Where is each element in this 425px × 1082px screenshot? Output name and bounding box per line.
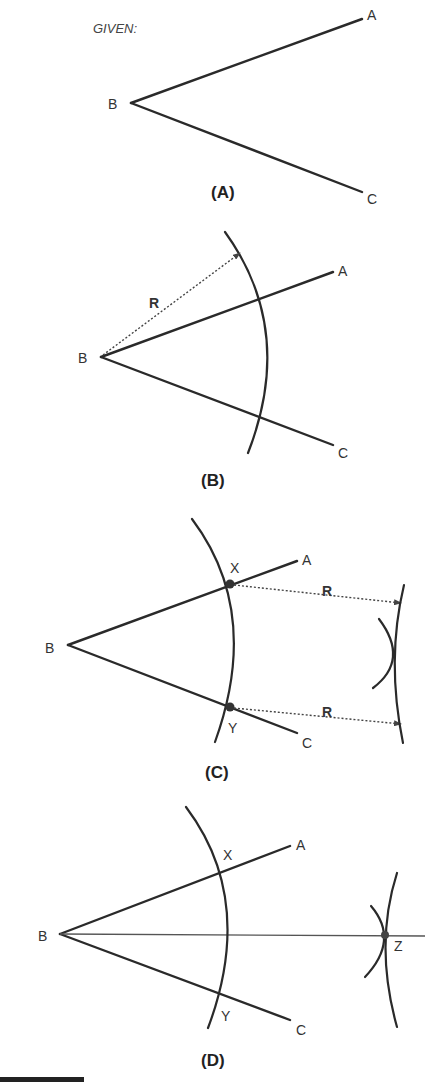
point-a-label: A [302, 552, 312, 568]
radius-arrow [103, 253, 240, 355]
ray-bc [131, 103, 362, 192]
point-z-label: Z [394, 938, 403, 954]
radius-arrow-from-y [234, 708, 401, 724]
panel-a: GIVEN: B A C (A) [93, 7, 377, 207]
point-a-label: A [367, 7, 377, 23]
point-b-label: B [108, 96, 117, 112]
arc-radius-r [225, 232, 267, 453]
point-z-dot [381, 931, 389, 939]
panel-d: X Y Z B A C (D) [38, 807, 425, 1070]
point-a-label: A [296, 837, 306, 853]
point-a-label: A [338, 263, 348, 279]
ray-ba [101, 272, 333, 357]
ray-ba [60, 846, 290, 934]
footer-bar [0, 1077, 84, 1082]
point-x-dot [226, 580, 235, 589]
angle-bisection-diagram: GIVEN: B A C (A) R B A C (B) R R X Y B A [0, 0, 425, 1082]
point-b-label: B [78, 350, 87, 366]
point-y-dot [226, 703, 235, 712]
caption-a: (A) [211, 183, 235, 202]
radius-label-y: R [322, 704, 332, 720]
radius-label-x: R [322, 583, 332, 599]
point-x-label: X [223, 847, 233, 863]
ray-bc [60, 934, 290, 1020]
point-c-label: C [338, 445, 348, 461]
bisector-line [60, 934, 425, 936]
panel-c: R R X Y B A C (C) [45, 519, 404, 782]
radius-arrow-from-x [234, 585, 401, 603]
point-y-label: Y [228, 720, 238, 736]
ray-bc [101, 357, 333, 445]
ray-ba [131, 19, 362, 103]
point-c-label: C [296, 1022, 306, 1038]
caption-c: (C) [205, 763, 229, 782]
point-b-label: B [45, 640, 54, 656]
arc-from-y [373, 619, 393, 688]
point-y-label: Y [221, 1008, 231, 1024]
panel-b: R B A C (B) [78, 232, 348, 490]
caption-b: (B) [201, 471, 225, 490]
ray-ba [68, 561, 297, 645]
caption-d: (D) [201, 1051, 225, 1070]
point-c-label: C [302, 735, 312, 751]
point-c-label: C [367, 191, 377, 207]
ray-bc [68, 645, 297, 733]
radius-label: R [149, 295, 159, 311]
arc-from-y [365, 906, 384, 977]
point-x-label: X [230, 560, 240, 576]
given-label: GIVEN: [93, 21, 137, 36]
point-b-label: B [38, 928, 47, 944]
arc-from-x [395, 585, 404, 743]
